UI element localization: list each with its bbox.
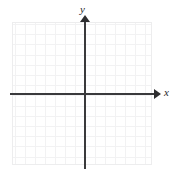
y-axis-line — [84, 19, 86, 169]
x-axis-label: x — [164, 87, 169, 98]
y-axis-arrow-icon — [80, 15, 90, 22]
coordinate-plane-figure: x y — [0, 0, 178, 176]
x-axis-arrow-icon — [154, 89, 161, 99]
y-axis-label: y — [80, 4, 85, 15]
